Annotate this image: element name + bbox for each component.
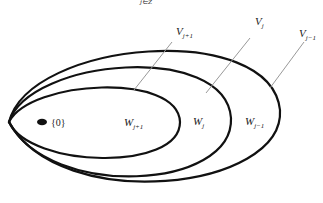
ellipse-v-j-minus-1: [9, 51, 280, 182]
ellipse-v-j-plus-1: [9, 87, 180, 158]
label-w-j: Wj: [193, 115, 204, 130]
nested-subspace-diagram: j∈Z Vj+1 Vj Vj−1 {0} Wj+1 Wj Wj−1: [0, 0, 323, 203]
label-w-j-plus-1: Wj+1: [124, 116, 143, 131]
label-w-j-minus-1: Wj−1: [245, 115, 264, 130]
leader-v-j-minus-1: [270, 42, 304, 88]
label-v-j-plus-1: Vj+1: [176, 25, 193, 40]
label-v-j: Vj: [255, 15, 264, 30]
label-v-j-minus-1: Vj−1: [299, 27, 316, 42]
origin-label: {0}: [51, 117, 66, 128]
origin-dot: [37, 119, 47, 125]
leader-v-j-plus-1: [134, 42, 172, 90]
title-fragment: j∈Z: [139, 0, 152, 6]
